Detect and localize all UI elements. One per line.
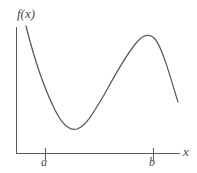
function-curve bbox=[26, 26, 178, 129]
function-plot-figure: f(x) x a b bbox=[0, 0, 197, 173]
x-tick-label-b: b bbox=[149, 156, 155, 168]
x-tick-label-a: a bbox=[41, 156, 47, 168]
plot-canvas bbox=[0, 0, 197, 173]
x-axis-label: x bbox=[183, 145, 189, 158]
y-axis-label: f(x) bbox=[17, 7, 35, 20]
